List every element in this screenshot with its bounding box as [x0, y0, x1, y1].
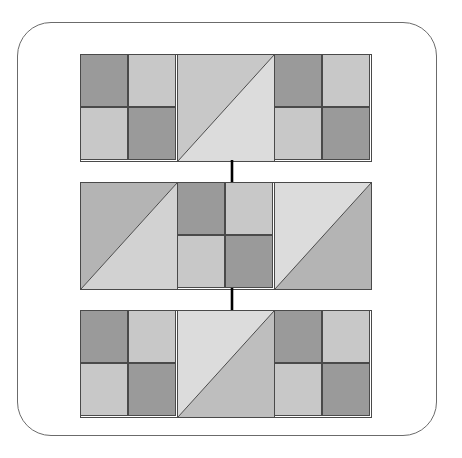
quad-top-left — [80, 310, 128, 363]
quad-bottom-right — [128, 107, 176, 160]
quad-top-right — [128, 310, 176, 363]
quad-top-right — [128, 54, 176, 107]
quad-bottom-left — [274, 107, 322, 160]
block-3-3 — [274, 310, 372, 418]
quad-bottom-left — [80, 107, 128, 160]
block-3-2 — [177, 310, 275, 418]
row-2 — [80, 182, 374, 290]
quad-top-left — [80, 54, 128, 107]
quad-bottom-right — [322, 363, 370, 416]
diagram-root — [0, 0, 462, 458]
quad-bottom-left — [80, 363, 128, 416]
row-1 — [80, 54, 374, 162]
diagram-stage — [0, 0, 462, 458]
quad-bottom-right — [322, 107, 370, 160]
quad-top-left — [274, 54, 322, 107]
quad-bottom-left — [274, 363, 322, 416]
quad-top-right — [225, 182, 273, 235]
quad-top-left — [274, 310, 322, 363]
quad-top-right — [322, 54, 370, 107]
quad-top-right — [322, 310, 370, 363]
block-1-3 — [274, 54, 372, 162]
block-2-3 — [274, 182, 372, 290]
row-3 — [80, 310, 374, 418]
quad-bottom-right — [128, 363, 176, 416]
block-1-2 — [177, 54, 275, 162]
block-1-1 — [80, 54, 178, 162]
quad-bottom-left — [177, 235, 225, 288]
block-2-1 — [80, 182, 178, 290]
block-3-1 — [80, 310, 178, 418]
block-2-2 — [177, 182, 275, 290]
quad-bottom-right — [225, 235, 273, 288]
quad-top-left — [177, 182, 225, 235]
